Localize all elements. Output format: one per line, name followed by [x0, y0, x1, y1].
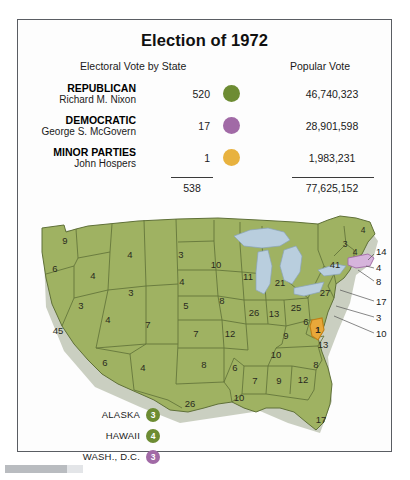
legend-item-hawaii: HAWAII 4 [50, 429, 160, 444]
svg-text:9: 9 [276, 375, 281, 386]
svg-text:4: 4 [376, 262, 381, 273]
candidate-name: Richard M. Nixon [59, 94, 136, 105]
legend-label: WASH., D.C. [83, 451, 140, 462]
svg-text:26: 26 [185, 398, 196, 409]
popular-vote-subtitle: Popular Vote [290, 60, 350, 72]
electoral-total-rule [171, 177, 213, 178]
page-title: Election of 1972 [18, 31, 391, 50]
electoral-votes: 520 [178, 88, 210, 100]
party-name: REPUBLICAN [67, 82, 136, 94]
legend-item-washington-dc: WASH., D.C. 3 [50, 450, 160, 465]
svg-text:12: 12 [298, 374, 309, 385]
electoral-votes: 17 [178, 120, 210, 132]
election-infographic-panel: Election of 1972 Electoral Vote by State… [17, 19, 392, 452]
svg-text:3: 3 [376, 312, 381, 323]
candidate-name: John Hospers [74, 158, 136, 169]
svg-text:45: 45 [53, 325, 64, 336]
svg-text:5: 5 [183, 300, 188, 311]
party-color-swatch [223, 85, 240, 102]
svg-text:12: 12 [225, 328, 236, 339]
svg-text:7: 7 [252, 375, 257, 386]
svg-text:8: 8 [313, 359, 318, 370]
svg-text:4: 4 [127, 249, 132, 260]
party-name: MINOR PARTIES [53, 146, 136, 158]
svg-text:7: 7 [193, 328, 198, 339]
svg-text:17: 17 [376, 296, 387, 307]
party-name: DEMOCRATIC [66, 114, 136, 126]
popular-votes: 46,740,323 [273, 88, 391, 100]
svg-text:10: 10 [376, 328, 387, 339]
svg-text:3: 3 [128, 287, 133, 298]
svg-text:4: 4 [361, 225, 366, 235]
svg-text:25: 25 [291, 302, 302, 313]
svg-text:9: 9 [283, 330, 288, 341]
svg-text:4: 4 [140, 362, 145, 373]
svg-text:11: 11 [243, 271, 253, 282]
svg-text:9: 9 [62, 235, 67, 246]
svg-text:6: 6 [232, 362, 237, 373]
scrollbar-thumb[interactable] [5, 465, 67, 473]
svg-text:21: 21 [275, 277, 286, 288]
svg-text:13: 13 [269, 308, 280, 319]
electoral-total: 538 [173, 182, 211, 194]
popular-votes: 28,901,598 [273, 120, 391, 132]
popular-total: 77,625,152 [273, 182, 391, 194]
result-row-republican: REPUBLICAN Richard M. Nixon 520 46,740,3… [18, 82, 391, 116]
svg-text:4: 4 [90, 270, 95, 281]
svg-text:7: 7 [145, 319, 150, 330]
svg-text:4: 4 [179, 276, 184, 287]
svg-text:26: 26 [249, 307, 260, 318]
svg-text:41: 41 [330, 259, 341, 270]
svg-text:3: 3 [343, 239, 348, 249]
popular-votes: 1,983,231 [273, 152, 391, 164]
legend-item-alaska: ALASKA 3 [50, 408, 160, 423]
svg-text:10: 10 [234, 392, 245, 403]
svg-text:1: 1 [315, 324, 321, 335]
svg-text:13: 13 [318, 339, 329, 350]
legend-vote-dot: 3 [146, 450, 160, 464]
svg-text:6: 6 [52, 263, 57, 274]
svg-text:6: 6 [303, 316, 308, 327]
electoral-votes: 1 [178, 152, 210, 164]
party-color-swatch [223, 149, 240, 166]
svg-text:3: 3 [78, 300, 83, 311]
electoral-vote-subtitle: Electoral Vote by State [80, 60, 186, 72]
candidate-name: George S. McGovern [42, 126, 136, 137]
svg-text:4: 4 [105, 314, 110, 325]
svg-text:6: 6 [102, 357, 107, 368]
svg-text:10: 10 [271, 349, 282, 360]
svg-text:14: 14 [376, 246, 387, 257]
legend-label: ALASKA [102, 409, 140, 420]
svg-text:10: 10 [211, 259, 222, 270]
svg-text:8: 8 [201, 359, 206, 370]
legend-vote-dot: 3 [146, 408, 160, 422]
legend-vote-dot: 4 [146, 429, 160, 443]
party-color-swatch [223, 117, 240, 134]
popular-total-rule [292, 177, 374, 178]
result-row-democratic: DEMOCRATIC George S. McGovern 17 28,901,… [18, 114, 391, 148]
svg-text:17: 17 [316, 414, 327, 425]
svg-text:8: 8 [376, 276, 381, 287]
svg-text:27: 27 [320, 287, 331, 298]
result-row-minor-parties: MINOR PARTIES John Hospers 1 1,983,231 [18, 146, 391, 180]
svg-text:3: 3 [178, 249, 183, 260]
legend-label: HAWAII [106, 430, 140, 441]
svg-text:4: 4 [353, 247, 358, 257]
svg-text:8: 8 [219, 295, 224, 306]
